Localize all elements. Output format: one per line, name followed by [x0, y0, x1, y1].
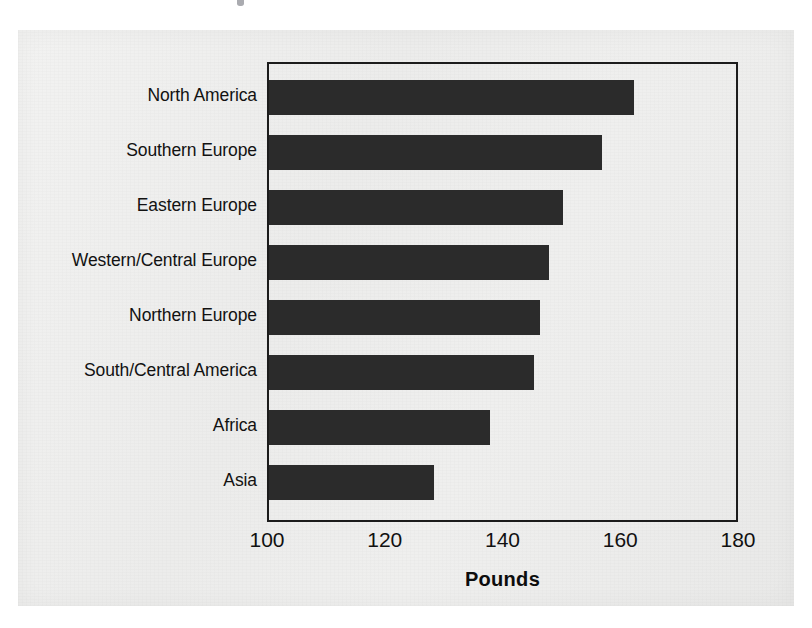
- bar: [269, 135, 602, 170]
- category-label: Western/Central Europe: [7, 250, 257, 271]
- x-axis-title: Pounds: [267, 568, 738, 591]
- x-tick-label: 120: [345, 528, 425, 552]
- x-tick-label: 140: [463, 528, 543, 552]
- category-label: Asia: [7, 470, 257, 491]
- x-tick-label: 180: [698, 528, 778, 552]
- bar-chart: North AmericaSouthern EuropeEastern Euro…: [0, 0, 812, 628]
- plot-area-frame: [267, 62, 738, 522]
- category-label: Africa: [7, 415, 257, 436]
- category-label: Southern Europe: [7, 140, 257, 161]
- bar: [269, 355, 534, 390]
- category-axis-labels: North AmericaSouthern EuropeEastern Euro…: [5, 0, 257, 628]
- category-label: North America: [7, 85, 257, 106]
- x-tick-label: 100: [227, 528, 307, 552]
- category-label: South/Central America: [7, 360, 257, 381]
- x-tick-label: 160: [580, 528, 660, 552]
- bar: [269, 410, 490, 445]
- bar: [269, 300, 540, 335]
- bar: [269, 245, 549, 280]
- bar: [269, 190, 563, 225]
- category-label: Eastern Europe: [7, 195, 257, 216]
- bar: [269, 465, 434, 500]
- category-label: Northern Europe: [7, 305, 257, 326]
- bar: [269, 80, 634, 115]
